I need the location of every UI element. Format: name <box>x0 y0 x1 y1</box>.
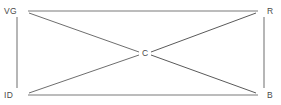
edge-c-b <box>151 55 256 93</box>
node-label-c: C <box>142 48 148 58</box>
diagram-canvas: VGRIDBC <box>0 0 281 105</box>
node-label-r: R <box>267 6 273 16</box>
edge-id-c <box>29 55 139 93</box>
node-link-graph: VGRIDBC <box>0 0 281 105</box>
edge-vg-c <box>29 13 139 52</box>
edges-group <box>17 11 264 95</box>
node-label-id: ID <box>4 90 13 100</box>
node-label-b: B <box>267 90 273 100</box>
edge-c-r <box>151 13 256 52</box>
nodes-group: VGRIDBC <box>4 6 273 100</box>
node-label-vg: VG <box>4 6 17 16</box>
